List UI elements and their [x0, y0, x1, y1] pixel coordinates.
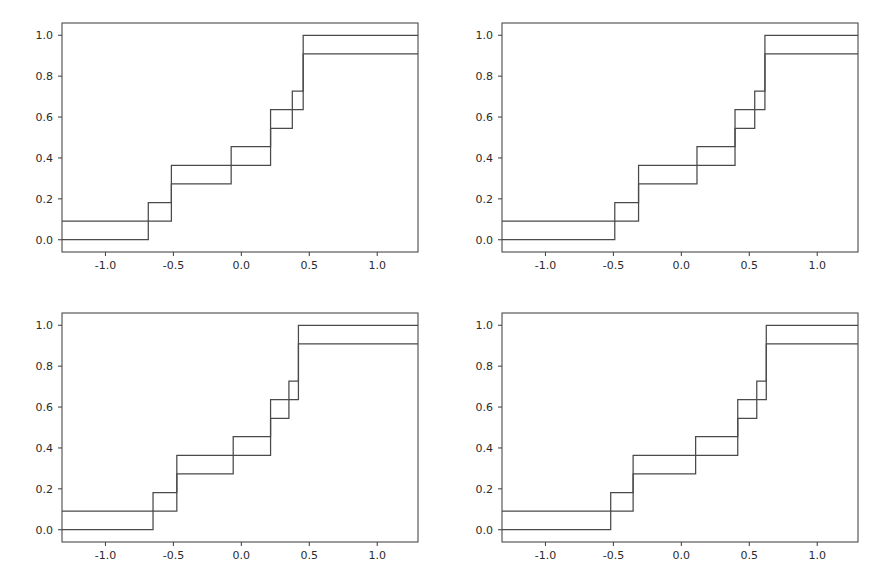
ecdf-step-line-ecdf-lower [62, 35, 418, 239]
y-tick-label: 0.4 [36, 442, 54, 455]
x-tick-label: 0.0 [233, 549, 251, 562]
figure-canvas: -1.0-0.50.00.51.00.00.20.40.60.81.0 -1.0… [0, 0, 880, 581]
y-tick-label: 0.0 [476, 524, 494, 537]
x-tick-label: 0.0 [673, 549, 691, 562]
x-tick-label: -0.5 [603, 259, 624, 272]
y-tick-label: 0.6 [476, 111, 494, 124]
y-tick-label: 0.0 [36, 234, 54, 247]
subplot-top-right: -1.0-0.50.00.51.00.00.20.40.60.81.0 [440, 0, 880, 291]
y-tick-label: 0.2 [36, 193, 54, 206]
y-tick-label: 0.8 [36, 70, 54, 83]
x-tick-label: 0.5 [301, 549, 319, 562]
x-tick-label: -0.5 [163, 549, 184, 562]
subplot-bottom-left: -1.0-0.50.00.51.00.00.20.40.60.81.0 [0, 290, 440, 581]
y-tick-label: 1.0 [36, 319, 54, 332]
y-tick-label: 1.0 [476, 29, 494, 42]
subplot-top-left: -1.0-0.50.00.51.00.00.20.40.60.81.0 [0, 0, 440, 291]
x-tick-label: 0.0 [673, 259, 691, 272]
x-tick-label: 1.0 [368, 259, 386, 272]
y-tick-label: 0.4 [36, 152, 54, 165]
x-tick-label: 1.0 [808, 549, 826, 562]
y-tick-label: 0.8 [476, 70, 494, 83]
x-tick-label: 0.5 [301, 259, 319, 272]
y-tick-label: 0.8 [476, 360, 494, 373]
x-tick-label: -0.5 [163, 259, 184, 272]
ecdf-step-line-ecdf-upper [502, 54, 858, 221]
y-tick-label: 0.2 [476, 193, 494, 206]
x-tick-label: 0.5 [741, 259, 759, 272]
x-tick-label: 0.5 [741, 549, 759, 562]
ecdf-step-line-ecdf-upper [62, 344, 418, 511]
y-tick-label: 1.0 [36, 29, 54, 42]
plot-area-bottom-right: -1.0-0.50.00.51.00.00.20.40.60.81.0 [440, 290, 880, 581]
subplot-bottom-right: -1.0-0.50.00.51.00.00.20.40.60.81.0 [440, 290, 880, 581]
y-tick-label: 0.0 [476, 234, 494, 247]
axes-spines [502, 313, 858, 542]
y-tick-label: 0.6 [36, 111, 54, 124]
y-tick-label: 0.4 [476, 152, 494, 165]
axes-spines [62, 313, 418, 542]
ecdf-step-line-ecdf-lower [62, 325, 418, 529]
ecdf-step-line-ecdf-lower [502, 35, 858, 239]
y-tick-label: 0.6 [476, 401, 494, 414]
y-tick-label: 0.4 [476, 442, 494, 455]
y-tick-label: 1.0 [476, 319, 494, 332]
x-tick-label: 1.0 [368, 549, 386, 562]
y-tick-label: 0.8 [36, 360, 54, 373]
x-tick-label: -1.0 [535, 549, 556, 562]
x-tick-label: 0.0 [233, 259, 251, 272]
x-tick-label: 1.0 [808, 259, 826, 272]
plot-area-top-right: -1.0-0.50.00.51.00.00.20.40.60.81.0 [440, 0, 880, 291]
ecdf-step-line-ecdf-upper [502, 344, 858, 511]
plot-area-bottom-left: -1.0-0.50.00.51.00.00.20.40.60.81.0 [0, 290, 440, 581]
ecdf-step-line-ecdf-upper [62, 54, 418, 221]
axes-spines [62, 23, 418, 252]
x-tick-label: -1.0 [95, 259, 116, 272]
x-tick-label: -1.0 [95, 549, 116, 562]
plot-area-top-left: -1.0-0.50.00.51.00.00.20.40.60.81.0 [0, 0, 440, 291]
y-tick-label: 0.2 [476, 483, 494, 496]
x-tick-label: -0.5 [603, 549, 624, 562]
y-tick-label: 0.2 [36, 483, 54, 496]
x-tick-label: -1.0 [535, 259, 556, 272]
axes-spines [502, 23, 858, 252]
y-tick-label: 0.6 [36, 401, 54, 414]
y-tick-label: 0.0 [36, 524, 54, 537]
ecdf-step-line-ecdf-lower [502, 325, 858, 529]
